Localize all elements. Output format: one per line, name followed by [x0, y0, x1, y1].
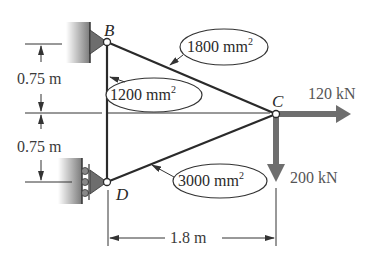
dimension-horizontal: 1.8 m [170, 230, 206, 246]
area-unit-bd: mm [146, 86, 171, 103]
wall-support-b [66, 22, 90, 63]
area-unit-cd: mm [214, 172, 239, 189]
area-label-bd: 1200 mm2 [110, 87, 176, 103]
node-label-b: B [104, 22, 114, 39]
node-label-c: C [272, 93, 283, 110]
area-label-bc: 1800 mm2 [187, 39, 253, 55]
load-label-horizontal: 120 kN [308, 86, 356, 102]
area-value-bc: 1800 [187, 38, 219, 55]
area-exp-cd: 2 [239, 170, 244, 181]
joint-c [273, 111, 280, 118]
joint-d [104, 179, 111, 186]
area-exp-bc: 2 [248, 36, 253, 47]
dimension-lower-vertical: 0.75 m [17, 139, 61, 155]
dimension-upper-vertical: 0.75 m [17, 71, 61, 87]
wall-support-d [58, 158, 82, 204]
load-arrow-200kn [267, 116, 285, 182]
area-label-cd: 3000 mm2 [178, 173, 244, 189]
roller-support-icon [82, 164, 90, 200]
load-arrow-120kn [278, 105, 351, 123]
area-unit-bc: mm [223, 38, 248, 55]
load-label-vertical: 200 kN [290, 170, 338, 186]
area-exp-bd: 2 [171, 84, 176, 95]
leader-arrows [110, 55, 183, 177]
area-value-cd: 3000 [178, 172, 210, 189]
area-value-bd: 1200 [110, 86, 142, 103]
node-label-d: D [116, 186, 128, 203]
